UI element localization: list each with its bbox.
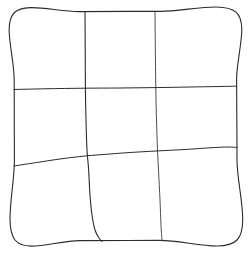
canvas-background	[0, 0, 249, 254]
hand-drawn-grid-svg	[0, 0, 249, 254]
figure-root	[0, 0, 249, 254]
